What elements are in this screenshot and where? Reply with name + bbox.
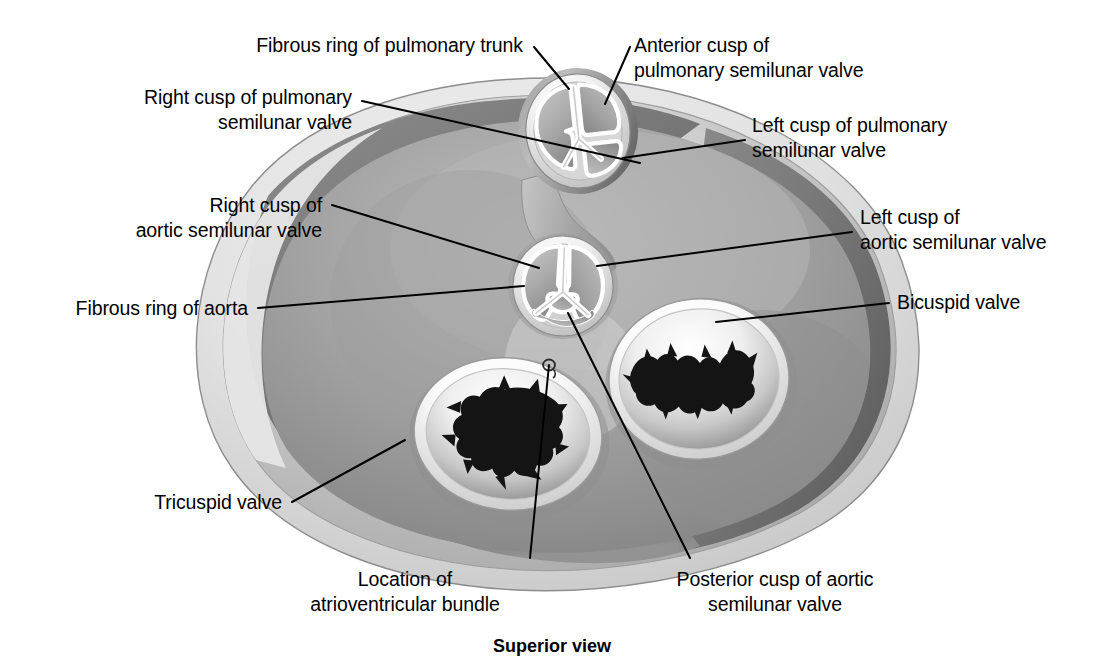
label-right-cusp-of-pulmonary-semilunar-valve: Right cusp of pulmonarysemilunar valve <box>144 85 352 135</box>
anatomy-figure: Fibrous ring of pulmonary trunk Right cu… <box>0 0 1104 668</box>
label-left-cusp-of-aortic-semilunar-valve: Left cusp ofaortic semilunar valve <box>860 205 1046 255</box>
figure-caption: Superior view <box>0 636 1104 657</box>
label-tricuspid-valve: Tricuspid valve <box>154 490 282 515</box>
label-fibrous-ring-of-pulmonary-trunk: Fibrous ring of pulmonary trunk <box>256 33 523 58</box>
label-right-cusp-of-aortic-semilunar-valve: Right cusp ofaortic semilunar valve <box>136 193 322 243</box>
label-anterior-cusp-of-pulmonary-semilunar-valve: Anterior cusp ofpulmonary semilunar valv… <box>634 33 863 83</box>
label-fibrous-ring-of-aorta: Fibrous ring of aorta <box>76 296 248 321</box>
label-location-of-atrioventricular-bundle: Location ofatrioventricular bundle <box>275 567 535 617</box>
label-posterior-cusp-of-aortic-semilunar-valve: Posterior cusp of aorticsemilunar valve <box>645 567 905 617</box>
label-bicuspid-valve: Bicuspid valve <box>897 290 1020 315</box>
label-left-cusp-of-pulmonary-semilunar-valve: Left cusp of pulmonarysemilunar valve <box>752 113 947 163</box>
